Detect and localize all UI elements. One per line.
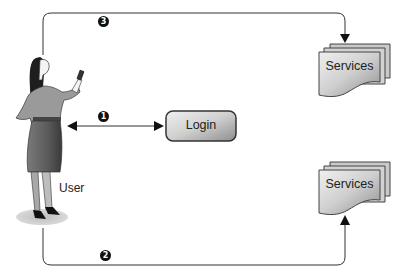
flow-diagram: Login Services Services User 3 1 2 (0, 0, 402, 277)
login-label: Login (166, 118, 236, 132)
arrowhead-up-icon (340, 215, 350, 225)
arrowhead-right-icon (154, 121, 164, 131)
phone-icon (76, 70, 84, 81)
flow-line-3 (43, 13, 350, 55)
step-badge-2: 2 (100, 250, 111, 261)
flow-line-1 (67, 121, 164, 131)
user-figure-icon (16, 57, 85, 225)
arrowhead-down-icon (340, 34, 350, 43)
services-top-label: Services (319, 59, 380, 73)
services-bottom-label: Services (319, 177, 380, 191)
step-badge-1: 1 (98, 111, 109, 122)
flow-line-2 (43, 215, 350, 265)
user-label: User (59, 181, 84, 195)
step-badge-3: 3 (98, 16, 109, 27)
arrowhead-left-icon (67, 121, 77, 131)
